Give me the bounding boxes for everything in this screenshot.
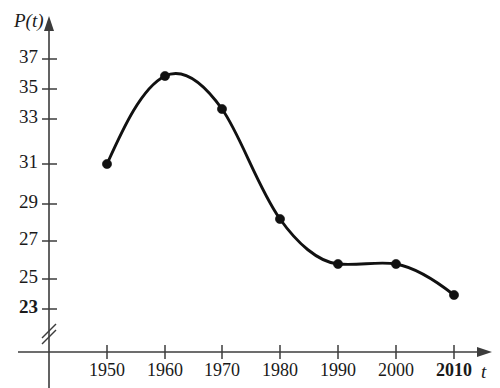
data-point-1970: [217, 104, 226, 113]
data-point-1980: [275, 214, 284, 223]
y-axis-title: P(t): [13, 10, 44, 32]
y-axis-tick-labels: 37 35 33 31 29 27 25 23: [19, 46, 38, 317]
x-tick-label-1950: 1950: [89, 360, 125, 380]
x-axis: [18, 347, 492, 357]
y-tick-label-25: 25: [19, 266, 38, 287]
x-axis-arrowhead: [477, 347, 492, 357]
y-axis-arrowhead: [44, 16, 54, 31]
x-tick-label-1970: 1970: [204, 360, 240, 380]
x-tick-label-1990: 1990: [320, 360, 356, 380]
y-tick-label-29: 29: [19, 191, 38, 212]
data-point-1990: [333, 259, 342, 268]
line-chart-svg: 37 35 33 31 29 27 25 23 1950 1960 1970 1…: [0, 0, 500, 388]
x-tick-label-2010: 2010: [436, 360, 472, 380]
x-tick-label-2000: 2000: [378, 360, 414, 380]
y-tick-label-27: 27: [19, 228, 38, 249]
population-curve: [107, 74, 454, 295]
x-axis-title: t: [481, 361, 487, 382]
data-point-2010: [449, 290, 458, 299]
x-tick-label-1980: 1980: [262, 360, 298, 380]
y-tick-label-31: 31: [19, 151, 38, 172]
y-tick-label-35: 35: [19, 76, 38, 97]
y-axis: [44, 16, 54, 388]
x-axis-tick-labels: 1950 1960 1970 1980 1990 2000 2010: [89, 360, 472, 380]
x-tick-label-1960: 1960: [147, 360, 183, 380]
y-tick-label-23: 23: [19, 296, 38, 317]
y-tick-label-33: 33: [19, 106, 38, 127]
y-tick-label-37: 37: [19, 46, 38, 67]
data-point-1950: [102, 159, 111, 168]
data-point-2000: [391, 259, 400, 268]
data-point-1960: [160, 71, 169, 80]
chart-figure: 37 35 33 31 29 27 25 23 1950 1960 1970 1…: [0, 0, 500, 388]
